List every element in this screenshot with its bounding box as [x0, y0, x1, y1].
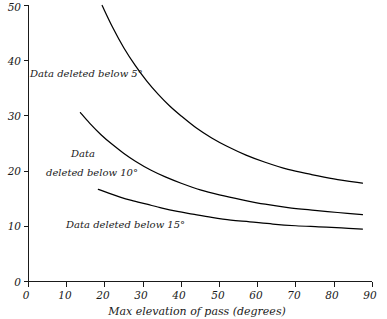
chart-canvas: 0 10 20 30 40 50 0 10 20 30 40 5 [0, 0, 387, 319]
x-tick-label-60: 60 [249, 289, 263, 301]
x-tick-label-70: 70 [287, 289, 301, 301]
curve-series-0 [102, 6, 362, 184]
annotation-below-10-line2: deleted below 10° [46, 167, 138, 178]
curve-annotations: Data deleted below 5° Data deleted below… [29, 68, 185, 230]
x-tick-label-30: 30 [134, 289, 148, 301]
x-tick-label-0: 0 [23, 289, 30, 301]
y-tick-label-40: 40 [7, 55, 22, 67]
x-tick-label-50: 50 [211, 289, 225, 301]
y-tick-label-10: 10 [8, 220, 22, 232]
x-tick-marks [29, 282, 373, 288]
x-tick-label-80: 80 [325, 289, 339, 301]
curve-series-1 [80, 113, 362, 215]
y-tick-labels: 0 10 20 30 40 50 [7, 1, 22, 288]
x-tick-label-20: 20 [95, 289, 110, 301]
x-tick-label-90: 90 [363, 289, 377, 301]
x-tick-label-40: 40 [171, 289, 186, 301]
axes-group [29, 5, 373, 282]
annotation-below-15: Data deleted below 15° [65, 219, 185, 230]
x-axis-title: Max elevation of pass (degrees) [107, 305, 286, 318]
y-tick-label-0: 0 [14, 276, 21, 288]
y-tick-label-50: 50 [8, 1, 22, 13]
chart-figure: 0 10 20 30 40 50 0 10 20 30 40 5 [0, 0, 387, 319]
y-tick-marks [24, 6, 29, 282]
annotation-below-5: Data deleted below 5° [29, 68, 143, 79]
x-tick-label-10: 10 [58, 289, 72, 301]
x-tick-labels: 0 10 20 30 40 50 60 70 80 90 [23, 289, 377, 301]
annotation-below-10-line1: Data [70, 148, 95, 159]
y-tick-label-30: 30 [8, 110, 22, 122]
y-tick-label-20: 20 [7, 165, 22, 177]
data-curves [80, 6, 362, 230]
